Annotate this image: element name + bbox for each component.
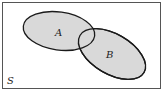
- set-a-label: A: [54, 27, 62, 38]
- set-b-label: B: [105, 49, 113, 60]
- universe-label: S: [7, 75, 14, 86]
- venn-diagram: A B S: [0, 0, 163, 99]
